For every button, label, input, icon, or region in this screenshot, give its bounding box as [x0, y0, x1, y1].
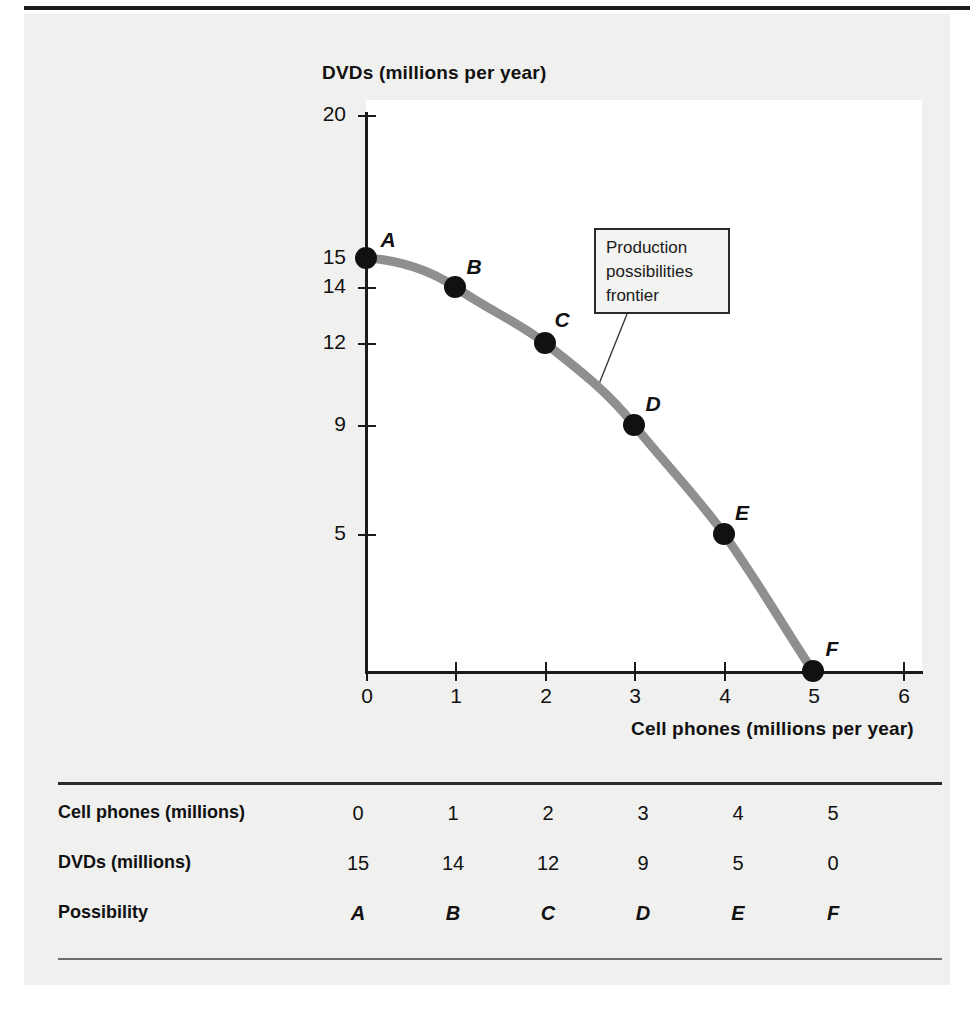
- y-tick-5: [358, 534, 376, 536]
- y-tick-label-5: 5: [300, 521, 346, 545]
- table-cell-dvds-5: 0: [803, 852, 863, 875]
- y-tick-label-20: 20: [300, 102, 346, 126]
- table-cell-cellphones-2: 2: [518, 802, 578, 825]
- y-axis-title: DVDs (millions per year): [322, 62, 546, 84]
- x-axis-line: [366, 671, 923, 674]
- ppf-chart: DVDs (millions per year) Cell phones (mi…: [0, 0, 970, 780]
- table-row-header-cell-phones: Cell phones (millions): [58, 802, 245, 823]
- x-tick-label-6: 6: [884, 684, 924, 708]
- table-cell-cellphones-4: 4: [708, 802, 768, 825]
- y-tick-label-15: 15: [300, 245, 346, 269]
- point-label-D: D: [638, 392, 668, 416]
- figure-card: DVDs (millions per year) Cell phones (mi…: [0, 0, 970, 1019]
- ppf-annotation-text: Production possibilities frontier: [606, 236, 720, 308]
- ppf-data-table: Cell phones (millions) 0 1 2 3 4 5 DVDs …: [0, 770, 970, 985]
- table-cell-cellphones-5: 5: [803, 802, 863, 825]
- x-tick-3: [634, 662, 636, 681]
- x-tick-0: [366, 662, 368, 681]
- x-tick-6: [903, 662, 905, 681]
- x-tick-5: [813, 662, 815, 681]
- y-tick-label-9: 9: [300, 412, 346, 436]
- y-tick-12: [358, 343, 376, 345]
- y-tick-14: [358, 287, 376, 289]
- table-top-rule: [58, 782, 942, 785]
- table-cell-dvds-0: 15: [328, 852, 388, 875]
- y-tick-label-14: 14: [300, 274, 346, 298]
- ppf-annotation-callout: Production possibilities frontier: [594, 228, 730, 314]
- table-cell-possibility-1: B: [423, 902, 483, 925]
- y-tick-label-12: 12: [300, 330, 346, 354]
- table-bottom-rule: [58, 958, 942, 960]
- x-tick-2: [545, 662, 547, 681]
- table-cell-dvds-3: 9: [613, 852, 673, 875]
- table-cell-cellphones-3: 3: [613, 802, 673, 825]
- table-row: Possibility A B C D E F: [0, 902, 970, 946]
- table-row-header-possibility: Possibility: [58, 902, 148, 923]
- table-cell-cellphones-0: 0: [328, 802, 388, 825]
- x-tick-1: [455, 662, 457, 681]
- table-cell-dvds-1: 14: [423, 852, 483, 875]
- x-axis-title: Cell phones (millions per year): [631, 718, 914, 740]
- table-cell-possibility-4: E: [708, 902, 768, 925]
- plot-area: [366, 100, 922, 672]
- point-label-A: A: [373, 228, 403, 252]
- y-tick-9: [358, 425, 376, 427]
- x-tick-label-1: 1: [436, 684, 476, 708]
- x-tick-label-5: 5: [794, 684, 834, 708]
- table-cell-dvds-2: 12: [518, 852, 578, 875]
- x-tick-label-2: 2: [526, 684, 566, 708]
- table-cell-possibility-0: A: [328, 902, 388, 925]
- y-tick-20: [358, 115, 376, 117]
- table-cell-possibility-3: D: [613, 902, 673, 925]
- table-row-header-dvds: DVDs (millions): [58, 852, 191, 873]
- x-tick-4: [724, 662, 726, 681]
- table-cell-cellphones-1: 1: [423, 802, 483, 825]
- x-tick-label-3: 3: [615, 684, 655, 708]
- table-cell-possibility-2: C: [518, 902, 578, 925]
- table-row: DVDs (millions) 15 14 12 9 5 0: [0, 852, 970, 896]
- point-label-B: B: [459, 255, 489, 279]
- point-label-E: E: [727, 501, 757, 525]
- y-axis-line: [365, 112, 368, 674]
- x-tick-label-0: 0: [347, 684, 387, 708]
- x-tick-label-4: 4: [705, 684, 745, 708]
- point-label-C: C: [547, 308, 577, 332]
- table-row: Cell phones (millions) 0 1 2 3 4 5: [0, 802, 970, 846]
- point-label-F: F: [817, 637, 847, 661]
- table-cell-dvds-4: 5: [708, 852, 768, 875]
- table-cell-possibility-5: F: [803, 902, 863, 925]
